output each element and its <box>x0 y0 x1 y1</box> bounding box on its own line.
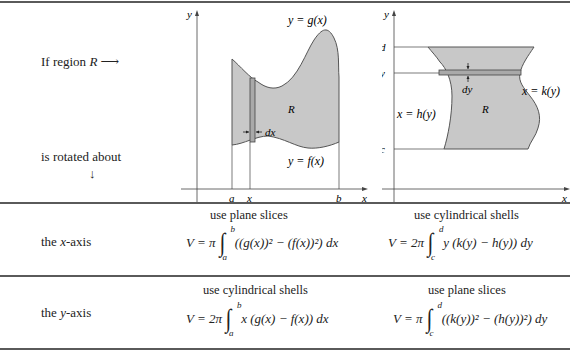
integral-upper-limit: b <box>231 224 236 234</box>
formula-integrand: x (g(x) − f(x)) dx <box>241 311 328 327</box>
if-region-label: If region R ⟶ <box>41 54 119 70</box>
dy-label: dy <box>462 83 473 95</box>
tick-label-c: c <box>382 143 385 155</box>
left-x-axis-label: x <box>361 192 367 202</box>
row-y-right-formula: V = π ∫ d c ((k(y))² − (h(y))²) dy <box>393 302 547 336</box>
integral-upper-limit: d <box>439 224 444 234</box>
left-region <box>232 30 339 148</box>
left-slice <box>250 78 255 142</box>
tick-label-a: a <box>229 192 235 202</box>
integral-sign: ∫ d c <box>427 230 434 256</box>
top-rule <box>0 1 570 3</box>
integral-upper-limit: d <box>438 300 443 310</box>
axis-label-pre: the <box>41 234 60 249</box>
tick-label-b: b <box>336 192 342 202</box>
right-x-axis-label: x <box>561 192 567 202</box>
formula-lhs: V = π <box>186 235 216 251</box>
right-y-axis-label: y <box>383 8 389 20</box>
row-x-right-formula: V = 2π ∫ d c y (k(y) − h(y)) dy <box>388 226 533 260</box>
row-y-left-formula: V = 2π ∫ b a x (g(x) − f(x)) dx <box>186 302 329 336</box>
axis-label-post: -axis <box>66 234 91 249</box>
region-symbol: R <box>89 54 97 69</box>
left-x-axis-arrow-icon <box>362 187 368 191</box>
left-y-axis-label: y <box>186 8 192 20</box>
bottom-rule <box>0 348 570 350</box>
row-y-axis-label: the y-axis <box>41 305 91 321</box>
arrow-down-icon: ↓ <box>89 166 96 182</box>
row-y-left-method: use cylindrical shells <box>203 283 308 298</box>
left-curve-label: x = h(y) <box>396 107 436 121</box>
if-region-text: If region <box>41 54 86 69</box>
arrow-right-icon: ⟶ <box>101 54 120 69</box>
right-region <box>428 47 540 149</box>
tick-label-x: x <box>246 192 252 202</box>
integral-sign: ∫ d c <box>426 306 433 332</box>
formula-integrand: y (k(y) − h(y)) dy <box>443 235 533 251</box>
integral-upper-limit: b <box>237 300 242 310</box>
lower-curve-label: y = f(x) <box>287 154 324 168</box>
row-x-right-method: use cylindrical shells <box>414 208 519 223</box>
graphs-bottom-rule <box>0 202 570 204</box>
integral-lower-limit: c <box>430 328 434 338</box>
row-separator <box>0 275 570 277</box>
upper-curve-label: y = g(x) <box>287 13 327 27</box>
left-graph: y x y = g(x) y = f(x) R dx a x b <box>178 6 378 202</box>
formula-integrand: ((g(x))² − (f(x))²) dx <box>235 235 339 251</box>
tick-label-d: d <box>382 41 386 53</box>
integral-lower-limit: a <box>223 252 228 262</box>
left-region-label: R <box>287 103 295 115</box>
formula-lhs: V = π <box>393 311 423 327</box>
right-y-axis-arrow-icon <box>392 10 396 16</box>
row-x-left-method: use plane slices <box>210 208 288 223</box>
axis-label-pre: the <box>41 305 60 320</box>
formula-integrand: ((k(y))² − (h(y))²) dy <box>442 311 548 327</box>
integral-lower-limit: a <box>229 328 234 338</box>
integral-sign: ∫ b a <box>219 230 226 256</box>
integral-sign: ∫ b a <box>225 306 232 332</box>
right-graph: y x d y c x = h(y) x = k(y) R dy <box>382 6 570 202</box>
left-y-axis-arrow-icon <box>195 10 199 16</box>
right-slice <box>439 70 521 75</box>
row-y-right-method: use plane slices <box>428 283 506 298</box>
formula-lhs: V = 2π <box>186 311 222 327</box>
right-region-label: R <box>481 103 489 115</box>
formula-lhs: V = 2π <box>388 235 424 251</box>
row-x-axis-label: the x-axis <box>41 234 91 250</box>
row-x-left-formula: V = π ∫ b a ((g(x))² − (f(x))²) dx <box>186 226 338 260</box>
rotated-about-label: is rotated about <box>41 149 121 165</box>
integral-lower-limit: c <box>431 252 435 262</box>
tick-label-y: y <box>382 67 385 79</box>
axis-label-post: -axis <box>66 305 91 320</box>
dx-label: dx <box>265 126 276 138</box>
right-curve-label: x = k(y) <box>521 84 560 98</box>
right-x-axis-arrow-icon <box>564 187 570 191</box>
